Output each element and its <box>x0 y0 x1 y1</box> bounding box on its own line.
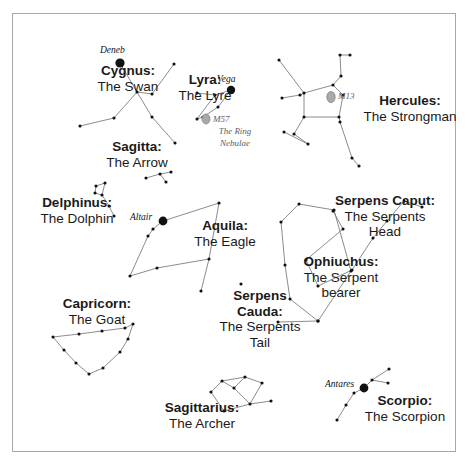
deep-sky-sublabel-m57: The RingNebulae <box>204 126 266 149</box>
constellation-label-scorpio: Scorpio:The Scorpion <box>353 393 457 424</box>
constellation-name: Ophiuchus: <box>290 254 392 270</box>
constellation-label-capricorn: Capricorn:The Goat <box>46 296 148 327</box>
constellation-label-sagittarius: Sagittarius:The Archer <box>146 400 258 431</box>
star-chart-figure: Cygnus:The SwanLyra:The LyreHercules:The… <box>0 0 469 469</box>
constellation-label-serpens-caput: Serpens Caput:The SerpentsHead <box>327 193 443 240</box>
constellation-common-name: The Goat <box>46 312 148 328</box>
constellation-name: Hercules: <box>358 93 462 109</box>
constellation-common-name: The Arrow <box>88 155 186 171</box>
constellation-label-aquila: Aquila:The Eagle <box>182 218 268 249</box>
constellation-label-sagitta: Sagitta:The Arrow <box>88 139 186 170</box>
star-name-label-deneb: Deneb <box>100 45 125 55</box>
constellation-common-name: The SerpentsHead <box>327 209 443 240</box>
deep-sky-label-m13: M13 <box>338 91 355 103</box>
constellation-label-hercules: Hercules:The Strongman <box>358 93 462 124</box>
star-name-label-antares: Antares <box>325 379 354 389</box>
star-name-label-vega: Vega <box>217 74 235 84</box>
constellation-common-name: The Lyre <box>166 88 244 104</box>
constellation-common-name: The Archer <box>146 416 258 432</box>
constellation-label-delphinus: Delphinus:The Dolphin <box>25 195 129 226</box>
constellation-name: SerpensCauda: <box>206 288 314 319</box>
constellation-name: Sagitta: <box>88 139 186 155</box>
constellation-name: Serpens Caput: <box>327 193 443 209</box>
constellation-name: Delphinus: <box>25 195 129 211</box>
constellation-common-name: The Scorpion <box>353 409 457 425</box>
constellation-name: Capricorn: <box>46 296 148 312</box>
constellation-common-name: The SerpentsTail <box>206 319 314 350</box>
constellation-name: Scorpio: <box>353 393 457 409</box>
constellation-common-name: The Eagle <box>182 234 268 250</box>
constellation-common-name: The Dolphin <box>25 211 129 227</box>
star-name-label-altair: Altair <box>130 212 152 222</box>
constellation-common-name: The Strongman <box>358 109 462 125</box>
constellation-label-serpens-cauda: SerpensCauda:The SerpentsTail <box>206 288 314 351</box>
constellation-name: Sagittarius: <box>146 400 258 416</box>
constellation-name: Aquila: <box>182 218 268 234</box>
deep-sky-label-m57: M57 <box>213 114 230 126</box>
